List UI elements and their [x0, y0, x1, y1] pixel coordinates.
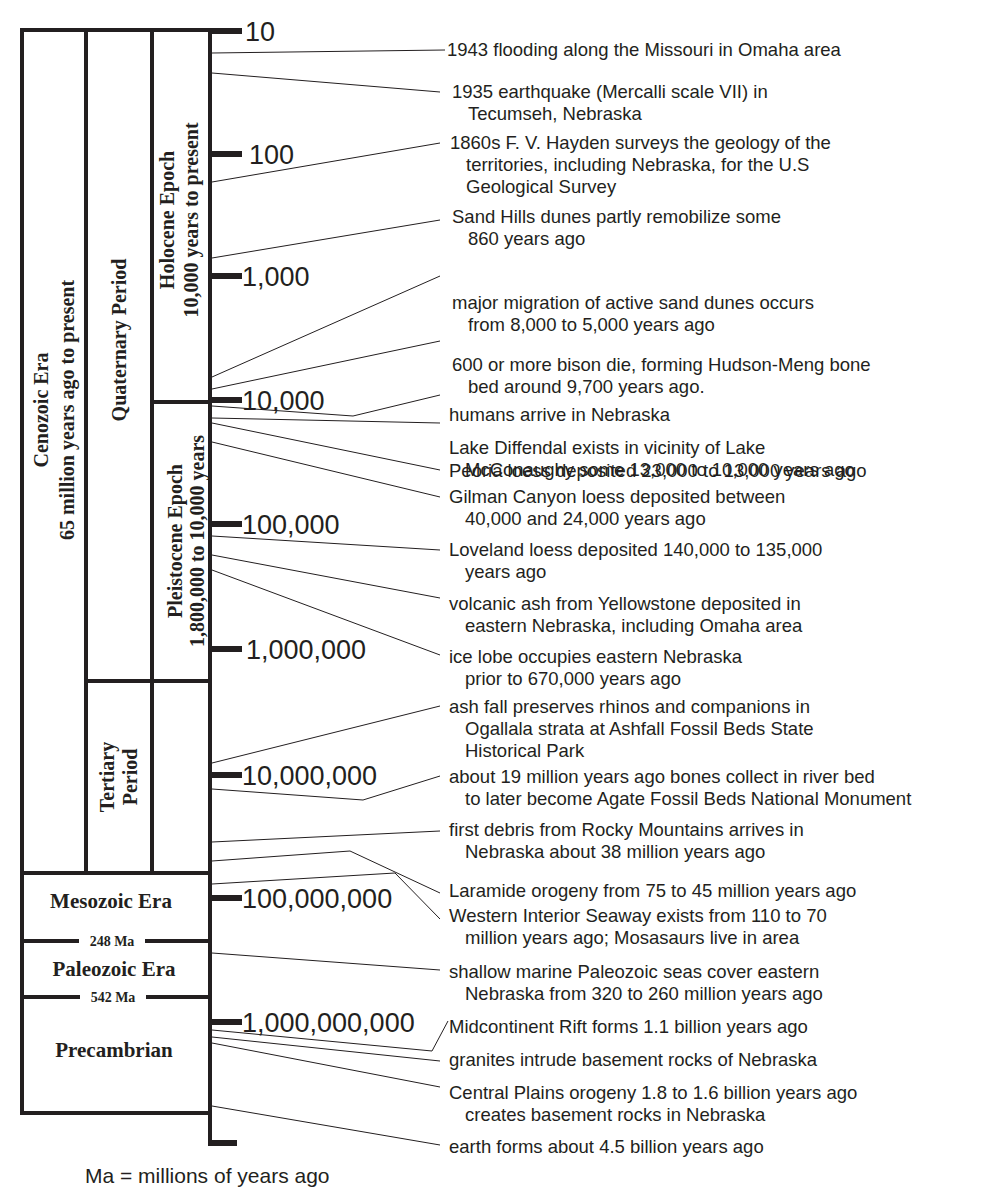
axis-tick-label: 100,000,000: [242, 884, 392, 914]
event-leader-lines: [212, 50, 448, 1145]
event-label-line: 860 years ago: [468, 228, 585, 249]
event-label: Sand Hills dunes partly remobilize some8…: [452, 206, 781, 249]
axis-tick-label: 100,000: [242, 510, 340, 540]
holocene-epoch-range: 10,000 years to present: [180, 122, 203, 317]
event-label-line: 40,000 and 24,000 years ago: [465, 508, 706, 529]
event-label-line: prior to 670,000 years ago: [465, 668, 681, 689]
event-label: Midcontinent Rift forms 1.1 billion year…: [449, 1016, 808, 1037]
event-label: about 19 million years ago bones collect…: [449, 766, 911, 809]
event-label-line: about 19 million years ago bones collect…: [449, 766, 875, 787]
precambrian-label: Precambrian: [55, 1038, 173, 1062]
event-leader-line: [212, 1106, 440, 1145]
event-label: major migration of active sand dunes occ…: [452, 292, 814, 335]
footnote: Ma = millions of years ago: [85, 1164, 330, 1187]
paleozoic-era-label: Paleozoic Era: [52, 957, 176, 981]
event-leader-line: [212, 953, 440, 970]
event-label-line: 1943 flooding along the Missouri in Omah…: [447, 39, 842, 60]
tertiary-epoch-box: [152, 681, 210, 873]
event-label-line: Gilman Canyon loess deposited between: [449, 486, 785, 507]
event-label-line: earth forms about 4.5 billion years ago: [449, 1136, 764, 1157]
event-label-line: shallow marine Paleozoic seas cover east…: [449, 961, 819, 982]
cenozoic-era-label: Cenozoic Era: [30, 353, 52, 468]
event-label-line: Lake Diffendal exists in vicinity of Lak…: [449, 437, 765, 458]
mesozoic-era-label: Mesozoic Era: [50, 889, 172, 913]
event-label: 1943 flooding along the Missouri in Omah…: [447, 39, 842, 60]
pleistocene-epoch-label: Pleistocene Epoch: [164, 464, 187, 618]
event-leader-line: [212, 1043, 440, 1087]
event-label: 1935 earthquake (Mercalli scale VII) inT…: [452, 81, 768, 124]
axis-tick-label: 10,000,000: [242, 761, 377, 791]
axis-tick-label: 100: [249, 140, 294, 170]
axis-tick-label: 1,000: [242, 262, 310, 292]
event-label: granites intrude basement rocks of Nebra…: [449, 1049, 818, 1070]
event-label-line: Western Interior Seaway exists from 110 …: [449, 905, 827, 926]
holocene-epoch-label: Holocene Epoch: [156, 151, 179, 289]
event-label-line: Midcontinent Rift forms 1.1 billion year…: [449, 1016, 808, 1037]
event-label: ice lobe occupies eastern Nebraskaprior …: [449, 646, 743, 689]
event-leader-line: [212, 442, 440, 497]
event-label-line: volcanic ash from Yellowstone deposited …: [449, 593, 801, 614]
tertiary-period-label-2: Period: [119, 749, 141, 806]
event-label-line: Central Plains orogeny 1.8 to 1.6 billio…: [449, 1082, 857, 1103]
event-leader-line: [212, 706, 440, 763]
event-label-line: ash fall preserves rhinos and companions…: [449, 696, 810, 717]
event-leader-line: [212, 220, 440, 258]
pleistocene-epoch-range: 1,800,000 to 10,000 years: [186, 435, 209, 647]
axis-tick-label: 1,000,000: [246, 635, 366, 665]
boundary-542-label: 542 Ma: [91, 990, 136, 1005]
event-labels: 1943 flooding along the Missouri in Omah…: [447, 39, 911, 1157]
event-label: Gilman Canyon loess deposited between40,…: [449, 486, 785, 529]
event-label-line: major migration of active sand dunes occ…: [452, 292, 814, 313]
event-label-line: Nebraska about 38 million years ago: [465, 841, 765, 862]
event-label-line: 1860s F. V. Hayden surveys the geology o…: [450, 132, 831, 153]
event-label-line: 600 or more bison die, forming Hudson-Me…: [452, 354, 871, 375]
event-label: humans arrive in Nebraska: [449, 404, 671, 425]
event-label-line: from 8,000 to 5,000 years ago: [468, 314, 715, 335]
event-label-line: Geological Survey: [466, 176, 617, 197]
event-leader-line: [212, 418, 440, 423]
event-label: ash fall preserves rhinos and companions…: [449, 696, 814, 761]
event-label: Laramide orogeny from 75 to 45 million y…: [449, 880, 856, 901]
event-leader-line: [212, 555, 440, 598]
event-leader-line: [212, 341, 440, 389]
event-leader-line: [212, 73, 440, 92]
quaternary-period-label: Quaternary Period: [108, 259, 131, 422]
cenozoic-era-range: 65 million years ago to present: [56, 280, 79, 541]
event-label-line: bed around 9,700 years ago.: [468, 376, 705, 397]
geologic-time-scale-diagram: Cenozoic Era 65 million years ago to pre…: [0, 0, 985, 1190]
event-label: 600 or more bison die, forming Hudson-Me…: [452, 354, 871, 397]
event-label: Western Interior Seaway exists from 110 …: [449, 905, 827, 948]
event-leader-line: [212, 831, 440, 842]
tertiary-period-label: Tertiary: [96, 742, 119, 812]
event-leader-line: [212, 143, 440, 182]
axis-tick-label: 1,000,000,000: [242, 1008, 415, 1038]
event-label-line: ice lobe occupies eastern Nebraska: [449, 646, 743, 667]
event-label: Central Plains orogeny 1.8 to 1.6 billio…: [449, 1082, 857, 1125]
event-label: volcanic ash from Yellowstone deposited …: [449, 593, 803, 636]
event-label-line: humans arrive in Nebraska: [449, 404, 671, 425]
event-label: Peoria loess deposited 23,000 to 13,000 …: [449, 460, 867, 481]
event-label: shallow marine Paleozoic seas cover east…: [449, 961, 823, 1004]
event-label: first debris from Rocky Mountains arrive…: [449, 819, 804, 862]
event-leader-line: [212, 423, 440, 470]
axis-ticks: 101001,00010,000100,0001,000,00010,000,0…: [208, 17, 415, 1038]
event-label: Loveland loess deposited 140,000 to 135,…: [449, 539, 822, 582]
event-leader-line: [212, 50, 445, 53]
event-label-line: Ogallala strata at Ashfall Fossil Beds S…: [465, 718, 814, 739]
event-label-line: years ago: [465, 561, 546, 582]
event-label-line: million years ago; Mosasaurs live in are…: [465, 927, 800, 948]
event-label-line: 1935 earthquake (Mercalli scale VII) in: [452, 81, 768, 102]
event-label-line: Historical Park: [465, 740, 585, 761]
event-label-line: eastern Nebraska, including Omaha area: [465, 615, 803, 636]
event-label-line: Laramide orogeny from 75 to 45 million y…: [449, 880, 856, 901]
event-label-line: Sand Hills dunes partly remobilize some: [452, 206, 781, 227]
event-label: 1860s F. V. Hayden surveys the geology o…: [450, 132, 831, 197]
event-label-line: Loveland loess deposited 140,000 to 135,…: [449, 539, 822, 560]
event-label-line: Nebraska from 320 to 260 million years a…: [465, 983, 823, 1004]
axis-tick-label: 10: [245, 17, 275, 47]
event-label-line: Peoria loess deposited 23,000 to 13,000 …: [449, 460, 867, 481]
event-label-line: territories, including Nebraska, for the…: [466, 154, 809, 175]
boundary-248-label: 248 Ma: [90, 934, 135, 949]
event-label-line: granites intrude basement rocks of Nebra…: [449, 1049, 818, 1070]
event-label-line: first debris from Rocky Mountains arrive…: [449, 819, 804, 840]
